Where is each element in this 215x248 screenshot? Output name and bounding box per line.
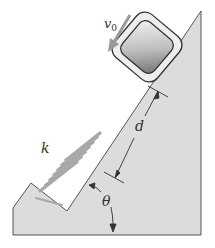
velocity-label: v0 xyxy=(104,16,117,33)
incline-spring-diagram: v0 d k θ xyxy=(0,0,215,248)
angle-label: θ xyxy=(102,193,111,209)
spring-constant-label: k xyxy=(41,140,49,156)
distance-label: d xyxy=(135,118,144,134)
